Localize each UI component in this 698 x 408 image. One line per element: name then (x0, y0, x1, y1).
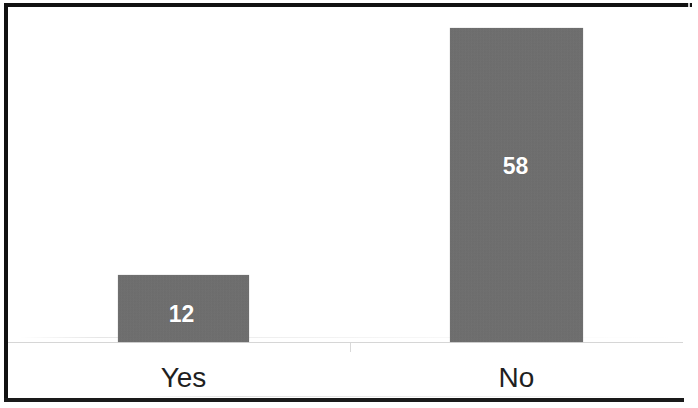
bar-chart-screenshot: 12 58 Yes No (0, 0, 698, 408)
category-label-no: No (450, 362, 583, 394)
bar-yes: 12 (118, 275, 249, 342)
category-label-yes: Yes (118, 362, 249, 394)
page-frame-bottom-border (4, 398, 684, 402)
category-axis-tick (350, 343, 351, 352)
chart-plot-area: 12 58 Yes No (8, 7, 690, 398)
bar-value-label-no: 58 (449, 153, 582, 180)
category-axis-line (8, 342, 683, 343)
bar-no: 58 (450, 28, 583, 342)
scan-artifact-lower (128, 396, 688, 397)
bar-value-label-yes: 12 (116, 301, 247, 328)
